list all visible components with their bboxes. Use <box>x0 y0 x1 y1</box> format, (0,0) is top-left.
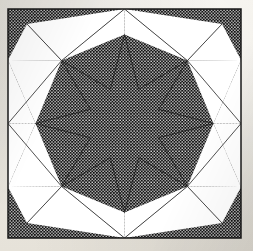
pattern-page <box>0 0 253 251</box>
quilt-block-figure <box>0 0 253 251</box>
quilt-block-svg <box>0 0 253 251</box>
block-ground <box>8 9 241 238</box>
